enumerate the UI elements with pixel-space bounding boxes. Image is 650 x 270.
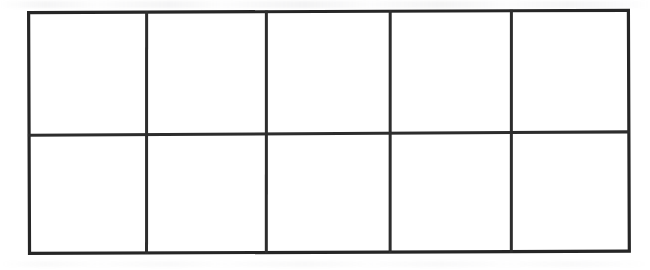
cell-r1-c1[interactable]: [29, 12, 147, 143]
cell-r1-c5[interactable]: [513, 10, 630, 141]
vertical-divider-3: [389, 12, 391, 252]
page-canvas: [0, 0, 650, 270]
scan-ghost-band-bottom: [0, 261, 650, 267]
cell-r1-c2[interactable]: [148, 12, 267, 143]
vertical-divider-1: [146, 13, 148, 253]
grid-lines-svg: [27, 9, 631, 255]
cell-r2-c2[interactable]: [148, 135, 266, 253]
cell-r1-c4[interactable]: [392, 11, 512, 142]
cell-r1-c3[interactable]: [268, 11, 391, 142]
vertical-divider-2: [265, 12, 267, 252]
scan-ghost-band-top: [0, 1, 650, 8]
cell-r2-c4[interactable]: [392, 134, 511, 252]
cell-r2-c3[interactable]: [268, 134, 390, 252]
blank-grid-table[interactable]: [27, 9, 631, 255]
cell-r2-c5[interactable]: [513, 133, 629, 251]
cell-r2-c1[interactable]: [29, 135, 146, 253]
